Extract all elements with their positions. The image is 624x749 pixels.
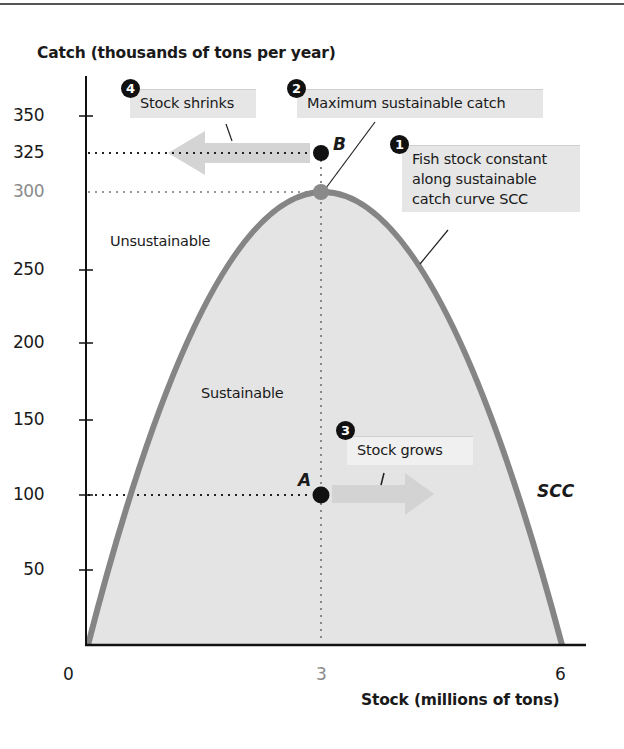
stock-shrinks-arrow <box>168 131 310 175</box>
callout-fish-stock-constant: Fish stock constant along sustainable ca… <box>402 145 580 212</box>
callout-1-line-1: Fish stock constant <box>412 149 572 169</box>
y-tick-300: 300 <box>0 181 44 201</box>
x-tick-6: 6 <box>555 664 566 684</box>
point-a-label: A <box>298 470 311 490</box>
x-axis-title: Stock (millions of tons) <box>361 691 559 709</box>
callout-max-sustainable-catch: Maximum sustainable catch <box>297 89 543 118</box>
x-tick-0: 0 <box>63 664 74 684</box>
callout-max-sustainable-catch-text: Maximum sustainable catch <box>307 95 506 111</box>
scc-curve-label: SCC <box>537 481 574 501</box>
badge-2: 2 <box>287 79 306 98</box>
y-tick-100: 100 <box>0 484 44 504</box>
point-b-label: B <box>333 134 346 154</box>
unsustainable-label: Unsustainable <box>110 233 210 249</box>
point-b <box>313 145 329 161</box>
y-axis-title: Catch (thousands of tons per year) <box>37 44 336 62</box>
badge-1: 1 <box>390 135 409 154</box>
max-sustainable-point <box>313 184 329 200</box>
y-tick-250: 250 <box>0 259 44 279</box>
y-tick-50: 50 <box>0 559 44 579</box>
sustainable-label: Sustainable <box>201 385 284 401</box>
badge-4: 4 <box>121 79 140 98</box>
callout-stock-shrinks-text: Stock shrinks <box>140 95 234 111</box>
callout-stock-shrinks: Stock shrinks <box>130 89 256 118</box>
badge-3: 3 <box>336 421 355 440</box>
point-a <box>313 487 330 504</box>
callout-stock-grows-text: Stock grows <box>357 442 443 458</box>
x-tick-3: 3 <box>316 664 327 684</box>
callout-stock-grows: Stock grows <box>347 436 473 465</box>
leader-c2 <box>326 122 375 188</box>
y-tick-350: 350 <box>0 105 44 125</box>
y-tick-325: 325 <box>0 142 44 162</box>
y-tick-150: 150 <box>0 409 44 429</box>
callout-1-line-2: along sustainable <box>412 169 572 189</box>
y-tick-200: 200 <box>0 332 44 352</box>
callout-1-line-3: catch curve SCC <box>412 189 572 209</box>
leader-c1-visible <box>420 230 448 264</box>
leader-c4 <box>226 124 232 141</box>
